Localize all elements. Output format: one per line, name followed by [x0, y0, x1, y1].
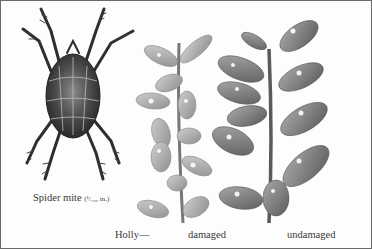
spider-mite-caption: Spider mite (¹/₁₀₀ in.): [33, 192, 109, 203]
figure-frame: Spider mite (¹/₁₀₀ in.) Holly— damaged u…: [0, 0, 372, 249]
holly-undamaged-illustration: [208, 14, 336, 223]
holly-damaged-illustration: [135, 31, 215, 223]
illustration: [1, 1, 371, 248]
mite-size: (¹/₁₀₀ in.): [84, 195, 109, 203]
undamaged-caption: undamaged: [287, 229, 335, 240]
holly-caption: Holly—: [115, 229, 149, 240]
damaged-caption: damaged: [188, 229, 226, 240]
mite-label: Spider mite: [33, 192, 82, 203]
